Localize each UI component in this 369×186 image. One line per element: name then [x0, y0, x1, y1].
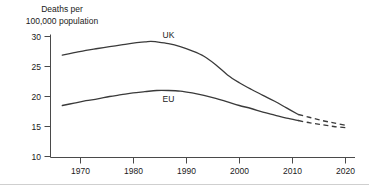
x-axis-ticks [81, 158, 346, 164]
y-axis-ticks [45, 37, 51, 157]
x-tick-label-2000: 2000 [230, 166, 249, 176]
chart-container: Deaths per 100,000 population 30 25 20 1… [0, 0, 369, 186]
y-axis-labels: 30 25 20 15 10 [32, 32, 42, 162]
y-axis-title-line2: 100,000 population [26, 16, 99, 26]
series-line-uk-projection [298, 115, 345, 126]
series-label-uk: UK [163, 30, 175, 40]
x-tick-label-1980: 1980 [124, 166, 143, 176]
series-label-eu: EU [163, 94, 175, 104]
series-line-eu-projection [298, 121, 345, 128]
x-tick-label-2020: 2020 [336, 166, 355, 176]
x-tick-label-1990: 1990 [177, 166, 196, 176]
y-tick-label-20: 20 [32, 92, 42, 102]
y-axis-title-line1: Deaths per [41, 4, 83, 14]
y-tick-label-25: 25 [32, 62, 42, 72]
line-chart: Deaths per 100,000 population 30 25 20 1… [0, 0, 369, 186]
axis-frame [51, 35, 356, 158]
series-line-uk [62, 41, 298, 114]
x-axis-labels: 1970 1980 1990 2000 2010 2020 [71, 166, 355, 176]
y-tick-label-15: 15 [32, 122, 42, 132]
y-tick-label-10: 10 [32, 152, 42, 162]
x-tick-label-1970: 1970 [71, 166, 90, 176]
x-tick-label-2010: 2010 [283, 166, 302, 176]
y-tick-label-30: 30 [32, 32, 42, 42]
